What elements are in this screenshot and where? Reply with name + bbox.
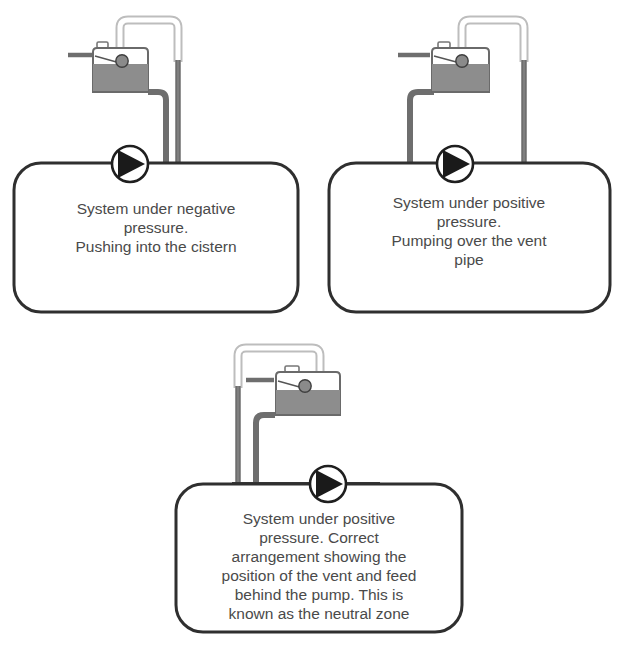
caption-line: known as the neutral zone bbox=[229, 605, 410, 622]
cistern-water bbox=[276, 390, 340, 415]
caption-line: Pumping over the vent bbox=[391, 232, 547, 249]
caption-line: position of the vent and feed bbox=[222, 567, 417, 584]
diagram-canvas: System under negative pressure. Pushing … bbox=[0, 0, 632, 651]
vent-pipe-icon bbox=[462, 20, 524, 172]
plumbing-pump-position-diagram: System under negative pressure. Pushing … bbox=[0, 0, 632, 651]
caption-line: System under positive bbox=[243, 510, 396, 527]
caption-line: arrangement showing the bbox=[232, 548, 407, 565]
ball-float-icon bbox=[299, 380, 311, 392]
caption-line: pressure. bbox=[437, 213, 502, 230]
feed-pipe-icon bbox=[256, 415, 275, 492]
cistern-water bbox=[93, 64, 148, 92]
cistern-icon bbox=[93, 42, 148, 92]
panel-neutral-zone: System under positive pressure. Correct … bbox=[176, 348, 462, 632]
panel-positive-pressure-vent: System under positive pressure. Pumping … bbox=[329, 20, 610, 312]
pump-icon bbox=[437, 146, 473, 182]
vent-pipe-icon bbox=[238, 348, 320, 492]
pump-icon bbox=[112, 146, 148, 182]
caption-line: System under positive bbox=[393, 194, 546, 211]
caption-line: behind the pump. This is bbox=[235, 586, 404, 603]
panel-negative-pressure: System under negative pressure. Pushing … bbox=[14, 20, 298, 312]
caption-line: pipe bbox=[454, 251, 483, 268]
feed-pipe-icon bbox=[148, 92, 166, 172]
ball-float-icon bbox=[456, 55, 468, 67]
cistern-icon bbox=[276, 366, 340, 415]
pump-icon bbox=[310, 466, 346, 502]
cistern-water bbox=[432, 64, 489, 92]
caption-line: pressure. Correct bbox=[259, 529, 379, 546]
feed-pipe-icon bbox=[410, 92, 434, 172]
ball-float-icon bbox=[116, 55, 128, 67]
cistern-icon bbox=[432, 42, 489, 92]
caption-line: Pushing into the cistern bbox=[75, 238, 236, 255]
caption-line: System under negative bbox=[77, 200, 236, 217]
caption-line: pressure. bbox=[124, 219, 189, 236]
